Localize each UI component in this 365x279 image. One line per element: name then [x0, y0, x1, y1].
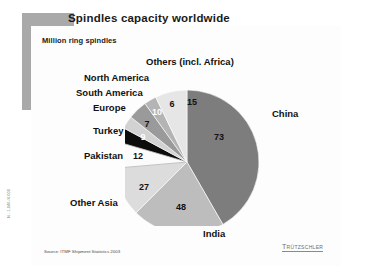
pie-label-pakistan: Pakistan [84, 150, 123, 161]
pie-label-other-asia: Other Asia [70, 197, 118, 208]
pie-value-india: 48 [176, 202, 186, 212]
pie-chart-svg: 73 48 27 12 9 7 10 6 15 [125, 66, 265, 226]
chart-unit-label: Million ring spindles [42, 36, 117, 45]
pie-value-china: 73 [214, 132, 224, 142]
pie-value-europe: 7 [144, 119, 149, 129]
pie-chart: 73 48 27 12 9 7 10 6 15 [125, 66, 265, 226]
pie-value-others: 15 [187, 97, 197, 107]
pie-value-turkey: 9 [140, 132, 145, 142]
pie-value-north-america: 6 [169, 99, 174, 109]
source-note: Source: ITMF Shipment Statistics 2003 [44, 249, 120, 254]
pie-value-pakistan: 12 [133, 151, 143, 161]
slide-canvas: Spindles capacity worldwide Million ring… [0, 0, 365, 279]
pie-label-north-america: North America [84, 72, 149, 83]
pie-label-china: China [272, 108, 298, 119]
slide-side-code: N - 1.046 /4-000 [6, 189, 11, 218]
pie-label-south-america: South America [76, 87, 143, 98]
pie-label-india: India [203, 228, 225, 239]
pie-label-others: Others (incl. Africa) [146, 56, 234, 67]
page-title: Spindles capacity worldwide [68, 12, 230, 24]
brand-logo: Trützschler [282, 243, 323, 252]
pie-value-south-america: 10 [152, 107, 162, 117]
pie-label-europe: Europe [93, 102, 126, 113]
pie-value-other-asia: 27 [139, 182, 149, 192]
pie-label-turkey: Turkey [93, 125, 123, 136]
